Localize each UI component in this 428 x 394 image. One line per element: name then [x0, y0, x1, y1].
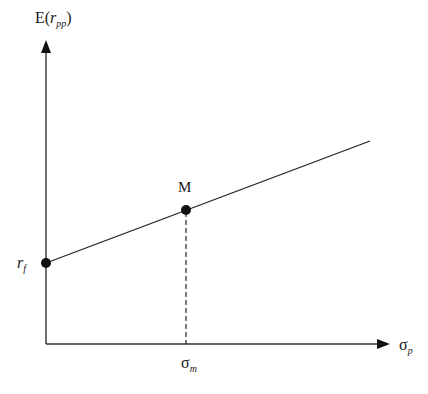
- risk-free-point: [41, 258, 51, 268]
- x-axis-arrow-icon: [377, 339, 390, 349]
- y-axis-arrow-icon: [41, 40, 51, 53]
- cml-diagram: E(rpp) rf M σm σp: [0, 0, 428, 394]
- market-point: [181, 205, 191, 215]
- y-axis-label: E(rpp): [35, 9, 72, 29]
- market-label: M: [178, 179, 191, 195]
- risk-free-label: rf: [17, 254, 27, 274]
- capital-market-line: [46, 141, 370, 263]
- x-axis-label: σp: [399, 336, 413, 356]
- sigma-m-label: σm: [181, 354, 197, 374]
